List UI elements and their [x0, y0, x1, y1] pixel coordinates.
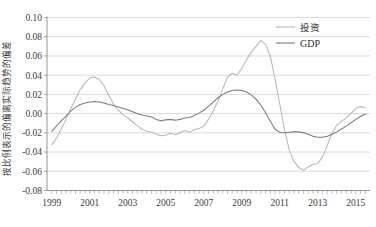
deviation-line-chart: 0.100.080.060.040.020.00-0.02-0.04-0.06-… — [0, 0, 376, 227]
y-tick-label: -0.08 — [22, 186, 42, 196]
x-tick-label: 2001 — [80, 198, 99, 208]
x-tick-label: 2015 — [346, 198, 365, 208]
legend-label: 投资 — [300, 22, 320, 33]
y-tick-label: -0.02 — [22, 128, 42, 138]
y-tick-label: 0.04 — [25, 71, 42, 81]
y-tick-label: 0.02 — [25, 90, 42, 100]
y-tick-label: -0.04 — [22, 147, 42, 157]
y-tick-label: 0.10 — [25, 13, 42, 23]
x-tick-label: 2011 — [270, 198, 289, 208]
y-tick-label: 0.06 — [25, 51, 42, 61]
x-tick-label: 2007 — [194, 198, 213, 208]
x-tick-label: 2009 — [232, 198, 251, 208]
x-tick-label: 2003 — [118, 198, 137, 208]
x-tick-label: 1999 — [42, 198, 61, 208]
x-tick-label: 2013 — [308, 198, 327, 208]
y-tick-label: 0.08 — [25, 32, 42, 42]
legend-label: GDP — [300, 38, 320, 49]
y-tick-label: 0.00 — [25, 109, 42, 119]
y-tick-label: -0.06 — [22, 167, 42, 177]
y-axis-title: 按比例表示的偏离实际趋势的偏差 — [1, 41, 12, 176]
chart-container: 0.100.080.060.040.020.00-0.02-0.04-0.06-… — [0, 0, 376, 227]
x-tick-label: 2005 — [156, 198, 175, 208]
x-axis-tick-labels: 199920012003200520072009201120132015 — [42, 198, 365, 208]
